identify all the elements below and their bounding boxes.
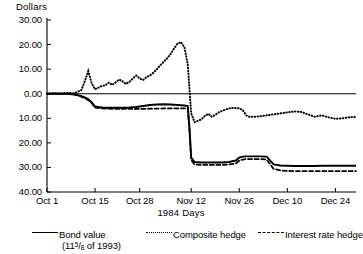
legend-line-dashed-icon (258, 232, 284, 234)
x-axis-title: 1984 Days (0, 207, 362, 218)
y-tick-label: 10.00 (2, 112, 42, 123)
x-tick-label: Dec 24 (307, 195, 363, 206)
legend-label-interest-rate-hedge: Interest rate hedge (285, 229, 363, 240)
legend-line-solid-icon (32, 232, 58, 234)
x-axis-ticks (47, 188, 335, 192)
y-tick-label: 20.00 (2, 137, 42, 148)
legend-label-bond-value: Bond value (59, 229, 106, 240)
y-tick-label: 0.00 (2, 88, 42, 99)
y-axis-ticks (47, 20, 51, 192)
data-series-group (47, 42, 356, 171)
y-tick-label: 30.00 (2, 14, 42, 25)
x-tick-label: Oct 28 (112, 195, 168, 206)
y-tick-label: 20.00 (2, 39, 42, 50)
y-tick-label: 10.00 (2, 63, 42, 74)
legend-sublabel-bond-coupon: (115/8 of 1993) (62, 240, 121, 251)
legend-line-dotted-icon (146, 232, 172, 234)
legend-item-bond-value: Bond value (115/8 of 1993) (32, 228, 121, 251)
series-line-composite-hedge (47, 42, 356, 122)
legend-item-composite-hedge: Composite hedge (146, 228, 246, 240)
chart-legend: Bond value (115/8 of 1993) Composite hed… (0, 222, 362, 254)
y-tick-label: 30.00 (2, 161, 42, 172)
legend-label-composite-hedge: Composite hedge (173, 229, 246, 240)
series-line-interest-rate-hedge (47, 94, 356, 171)
legend-item-interest-rate-hedge: Interest rate hedge (258, 228, 363, 240)
